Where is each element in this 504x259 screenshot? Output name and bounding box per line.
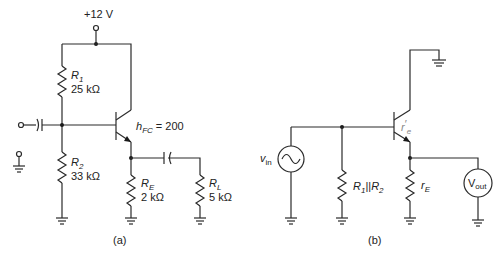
caption-b: (b) [368,234,381,246]
resistor-r1-parallel-r2: R1||R2 [336,127,384,224]
panel-a: +12 V R1 25 kΩ [13,8,232,246]
svg-text:2 kΩ: 2 kΩ [141,191,164,203]
svg-text:R1: R1 [71,69,83,84]
ground-symbol [13,152,25,173]
resistor-r2: R2 33 kΩ [56,152,100,224]
panel-b: vin R1||R2 r′e [260,50,492,246]
junction-dot [60,123,64,127]
svg-text:Vout: Vout [468,177,487,191]
svg-text:R2: R2 [71,156,84,171]
svg-text:RL: RL [209,177,221,192]
resistor-re-small: rE [404,158,431,224]
supply-terminal [94,26,99,31]
svg-text:5 kΩ: 5 kΩ [209,191,232,203]
input-terminal [19,119,117,131]
svg-text:r′e: r′e [401,118,412,136]
voltmeter-vout: Vout [410,158,492,226]
bjt-transistor-ac-model: r′e [394,110,412,158]
svg-text:33 kΩ: 33 kΩ [71,170,100,182]
svg-text:R1||R2: R1||R2 [353,180,384,195]
circuit-diagram: +12 V R1 25 kΩ [0,0,504,259]
resistor-re: RE 2 kΩ [125,158,164,224]
svg-text:RE: RE [141,177,155,192]
bjt-transistor: hFC = 200 [116,110,184,158]
resistor-rl: RL 5 kΩ [194,175,232,224]
supply-label: +12 V [84,8,114,20]
svg-text:hFC = 200: hFC = 200 [136,120,184,135]
caption-a: (a) [113,234,126,246]
svg-text:vin: vin [260,152,272,167]
resistor-r1: R1 25 kΩ [58,44,100,152]
svg-text:rE: rE [421,179,431,194]
ac-source-vin: vin [260,127,304,224]
svg-text:25 kΩ: 25 kΩ [71,83,100,95]
